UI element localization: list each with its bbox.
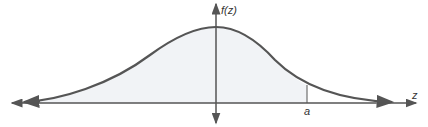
y-axis-label: f(z) bbox=[221, 4, 237, 16]
shaded-area bbox=[20, 27, 307, 103]
a-label: a bbox=[304, 105, 310, 117]
x-axis-label: z bbox=[411, 89, 418, 101]
bell-curve-left-arrow bbox=[24, 102, 40, 103]
normal-curve-diagram: f(z) z a bbox=[0, 0, 428, 127]
